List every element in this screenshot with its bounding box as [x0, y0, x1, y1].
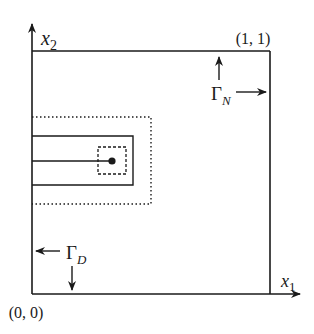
x1-axis-label: x1 [280, 271, 296, 294]
crack-tip-dot [108, 157, 115, 164]
domain-diagram: x2 x1 (1, 1) (0, 0) ΓN ΓD [0, 0, 314, 334]
origin-label: (0, 0) [9, 304, 44, 322]
gamma-d-label: ΓD [66, 242, 87, 267]
gamma-n-label: ΓN [211, 83, 232, 108]
x2-axis-label: x2 [40, 27, 57, 53]
top-right-corner-label: (1, 1) [236, 30, 271, 48]
